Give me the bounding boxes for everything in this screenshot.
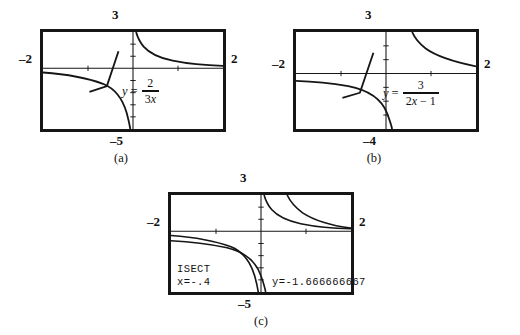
equation-a-den-var: x xyxy=(151,92,156,106)
equation-b-equals: = xyxy=(392,87,399,100)
y-min-label-c: –5 xyxy=(238,297,251,310)
equation-label-b: y = 3 2x− 1 xyxy=(383,79,439,107)
x-max-label-a: 2 xyxy=(231,52,238,65)
equation-b-fraction: 3 2x− 1 xyxy=(403,79,439,107)
isect-y-value: y=-1.666666667 xyxy=(272,276,366,289)
equation-a-equals: = xyxy=(131,85,138,98)
y-max-label-a: 3 xyxy=(112,8,119,21)
equation-b-lhs: y xyxy=(383,87,389,100)
label-leader-a xyxy=(89,51,118,91)
isect-x-value: x=-.4 xyxy=(177,276,211,289)
caption-b: (b) xyxy=(356,151,392,166)
x-min-label-a: –2 xyxy=(19,52,32,65)
equation-b-den-var: x xyxy=(412,94,417,108)
y-max-label-c: 3 xyxy=(240,171,247,184)
equation-b-numerator: 3 xyxy=(415,79,427,91)
x-max-label-c: 2 xyxy=(359,215,366,228)
curve-a-right xyxy=(136,32,223,66)
caption-c: (c) xyxy=(243,314,279,329)
equation-a-numerator: 2 xyxy=(144,77,156,89)
isect-mode-label: ISECT xyxy=(177,263,211,276)
x-min-label-b: –2 xyxy=(272,57,285,70)
y-max-label-b: 3 xyxy=(365,8,372,21)
y-min-label-a: –5 xyxy=(110,134,123,147)
equation-a-fraction: 2 3x xyxy=(142,77,159,105)
curve-c-first-right xyxy=(264,195,351,229)
equation-a-denominator: 3x xyxy=(142,93,159,105)
label-leader-b xyxy=(342,53,373,98)
y-min-label-b: –4 xyxy=(363,134,376,147)
curve-a-left xyxy=(43,72,130,129)
curve-b-right xyxy=(412,32,476,66)
curve-b-left xyxy=(296,81,392,129)
caption-a: (a) xyxy=(103,151,139,166)
x-min-label-c: –2 xyxy=(147,215,160,228)
equation-label-a: y = 2 3x xyxy=(122,77,159,105)
figure-container: 3 –2 2 –5 y = 2 3x (a) xyxy=(0,0,520,335)
x-max-label-b: 2 xyxy=(484,57,491,70)
equation-b-den-rest: − 1 xyxy=(420,94,436,108)
equation-b-denominator: 2x− 1 xyxy=(403,95,439,107)
equation-a-lhs: y xyxy=(122,85,128,98)
